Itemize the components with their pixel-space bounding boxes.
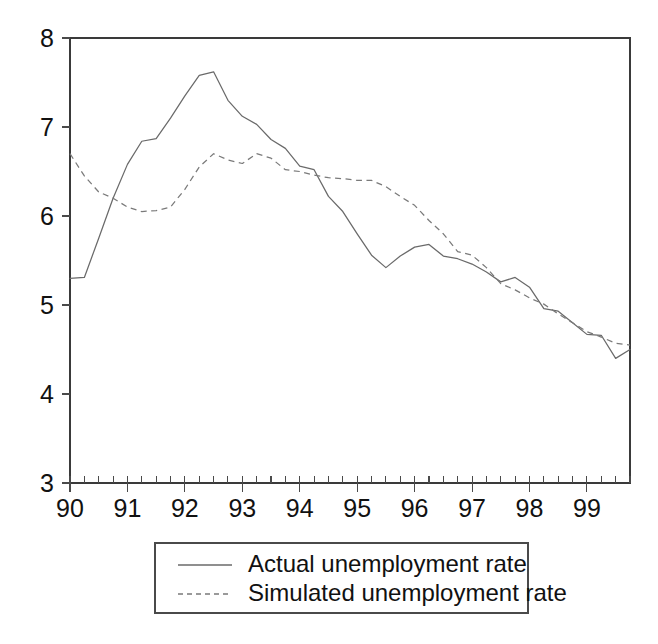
chart-figure: 345678 90919293949596979899 Actual unemp… [0,0,658,644]
y-tick-label-7: 7 [40,113,54,141]
x-axis-labels: 90919293949596979899 [56,494,601,522]
x-tick-label-97: 97 [458,494,486,522]
x-tick-label-91: 91 [114,494,142,522]
y-axis-ticks [62,38,70,483]
y-tick-label-6: 6 [40,202,54,230]
axis-box [70,38,630,483]
unemployment-line-chart: 345678 90919293949596979899 Actual unemp… [0,0,658,644]
series-line-simulated-unemployment-rate [70,154,630,345]
x-axis-minor-ticks [70,476,630,483]
y-tick-label-3: 3 [40,469,54,497]
y-axis-labels: 345678 [40,24,54,497]
y-tick-label-4: 4 [40,380,54,408]
x-tick-label-90: 90 [56,494,84,522]
legend-label-actual: Actual unemployment rate [248,550,527,577]
legend-label-simulated: Simulated unemployment rate [248,579,567,606]
y-tick-label-8: 8 [40,24,54,52]
x-tick-label-98: 98 [516,494,544,522]
x-tick-label-94: 94 [286,494,314,522]
x-tick-label-92: 92 [171,494,199,522]
x-tick-label-96: 96 [401,494,429,522]
x-tick-label-95: 95 [343,494,371,522]
plot-frame [70,38,630,483]
series-line-actual-unemployment-rate [70,72,630,359]
y-tick-label-5: 5 [40,291,54,319]
legend: Actual unemployment rate Simulated unemp… [155,543,567,613]
x-tick-label-99: 99 [573,494,601,522]
x-tick-label-93: 93 [228,494,256,522]
series-group [70,72,630,359]
x-axis-ticks [70,483,587,492]
